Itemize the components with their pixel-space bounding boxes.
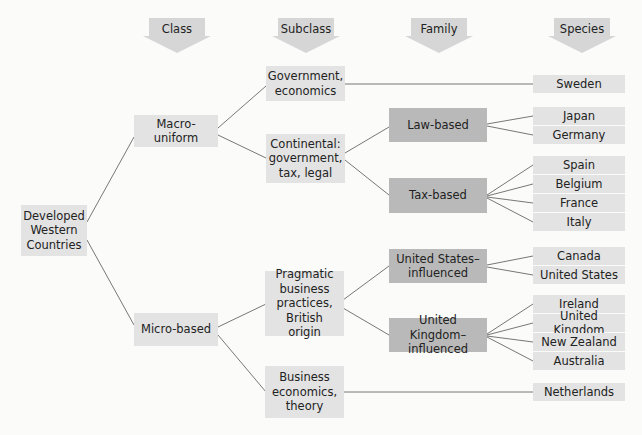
- class-node-macro-uniform: Macro-uniform: [134, 115, 218, 147]
- species-node-united-states: United States: [533, 266, 625, 284]
- species-node-united-kingdom: United Kingdom: [533, 314, 625, 332]
- header-label: Class: [143, 22, 211, 36]
- header-label: Family: [405, 22, 473, 36]
- species-node-canada: Canada: [533, 247, 625, 265]
- species-node-france: France: [533, 194, 625, 212]
- species-node-netherlands: Netherlands: [533, 383, 625, 401]
- species-node-sweden: Sweden: [533, 75, 625, 93]
- species-node-belgium: Belgium: [533, 175, 625, 193]
- header-arrow-class: Class: [143, 18, 211, 53]
- family-node-uk-influenced: United Kingdom– influenced: [389, 318, 487, 352]
- species-node-japan: Japan: [533, 107, 625, 125]
- class-node-micro-based: Micro-based: [134, 313, 218, 346]
- species-node-australia: Australia: [533, 352, 625, 370]
- family-node-us-influenced: United States– influenced: [389, 249, 487, 283]
- subclass-node-continental: Continental: government, tax, legal: [266, 134, 345, 183]
- subclass-node-pragmatic: Pragmatic business practices, British or…: [265, 271, 344, 336]
- species-node-spain: Spain: [533, 156, 625, 174]
- species-node-italy: Italy: [533, 213, 625, 231]
- header-label: Subclass: [272, 22, 340, 36]
- family-node-tax-based: Tax-based: [389, 178, 487, 213]
- header-arrow-family: Family: [405, 18, 473, 53]
- species-node-new-zealand: New Zealand: [533, 333, 625, 351]
- subclass-node-business: Business economics, theory: [265, 366, 344, 418]
- family-node-law-based: Law-based: [389, 108, 487, 142]
- header-label: Species: [548, 22, 616, 36]
- root-node: Developed Western Countries: [21, 205, 87, 256]
- header-arrow-subclass: Subclass: [272, 18, 340, 53]
- subclass-node-government: Government, economics: [266, 66, 345, 101]
- species-node-germany: Germany: [533, 126, 625, 144]
- header-arrow-species: Species: [548, 18, 616, 53]
